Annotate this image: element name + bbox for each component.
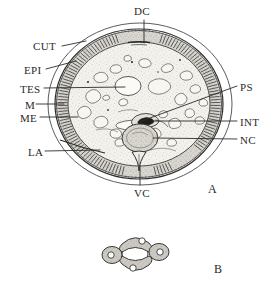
leader-cut	[62, 41, 86, 46]
label-me: ME	[20, 113, 37, 124]
label-cut: CUT	[33, 41, 56, 52]
label-ps: PS	[240, 82, 253, 93]
label-int: INT	[240, 117, 259, 128]
testis-profile	[115, 77, 141, 96]
panel-b-detail	[102, 238, 169, 271]
label-dc: DC	[134, 6, 150, 17]
label-epi: EPI	[24, 65, 41, 76]
panel-label-b: B	[214, 262, 222, 277]
panel-a-cross-section	[36, 20, 237, 185]
label-vc: VC	[134, 188, 150, 199]
detail-lobe-right	[149, 244, 169, 261]
label-m: M	[25, 100, 35, 111]
panel-label-a: A	[208, 182, 217, 197]
detail-lobe-left	[102, 247, 122, 264]
label-nc: NC	[240, 135, 256, 146]
label-tes: TES	[20, 84, 40, 95]
label-la: LA	[28, 147, 43, 158]
